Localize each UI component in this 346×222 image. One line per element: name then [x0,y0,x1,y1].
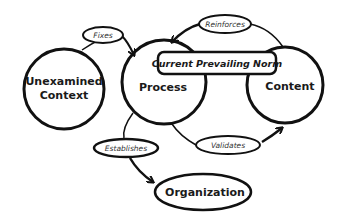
edge-validates-label: Validates [211,141,245,150]
edge-fixes-label: Fixes [93,31,112,40]
edge-establishes-label: Establishes [105,144,147,153]
edge-fixes: Fixes [82,27,134,55]
edge-validates: Validates [172,124,282,154]
edge-reinforces: Reinforces [172,15,283,47]
node-unexamined-context-line1: Unexamined [25,75,102,88]
node-content-label: Content [265,80,314,93]
node-current-prevailing-norm: Current Prevailing Norm [152,52,282,74]
edge-reinforces-label: Reinforces [205,20,245,29]
arrow-icon [172,24,200,42]
arrow-icon [262,128,282,142]
node-unexamined-context: Unexamined Context [24,49,104,129]
arrow-icon [122,36,134,55]
edge-establishes: Establishes [94,113,158,182]
arrow-icon [130,158,153,182]
node-organization-label: Organization [165,186,245,199]
node-unexamined-context-line2: Context [40,89,89,102]
node-process-label: Process [139,81,188,94]
node-organization: Organization [155,174,251,210]
diagram-canvas: Unexamined Context Process Content Curre… [0,0,346,222]
norm-label: Current Prevailing Norm [152,58,282,69]
